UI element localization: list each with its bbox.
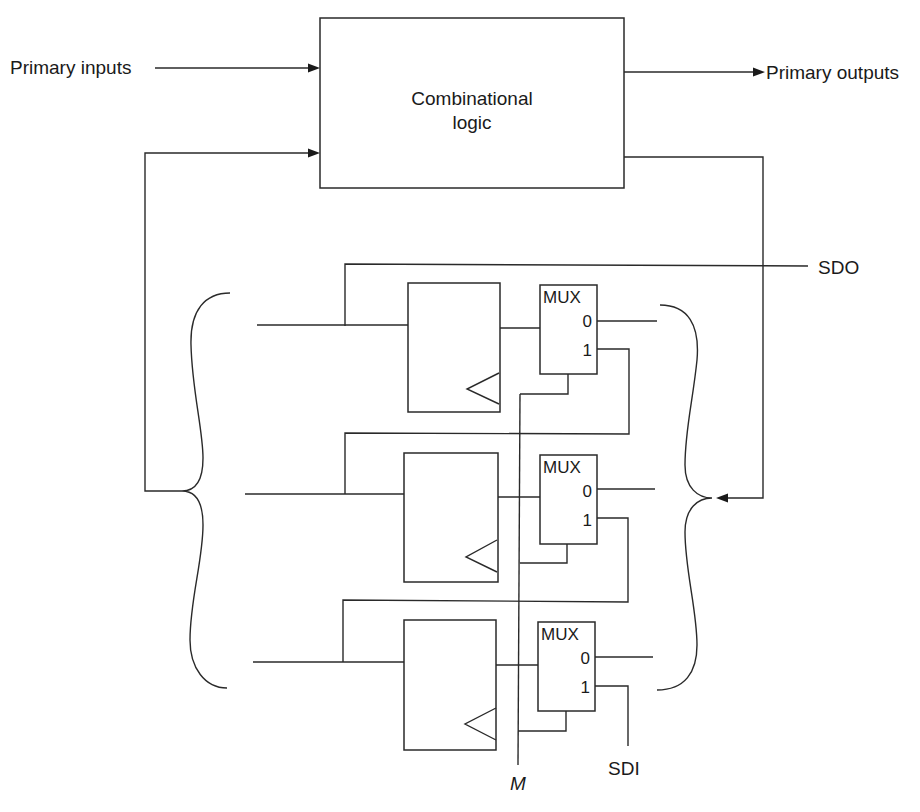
primary-inputs-label: Primary inputs xyxy=(10,57,131,78)
mux-1-title: MUX xyxy=(543,288,581,307)
primary-inputs: Primary inputs xyxy=(10,57,320,78)
next-state-path xyxy=(624,157,763,503)
mode-select-line: M xyxy=(510,394,526,794)
left-brace xyxy=(182,293,230,688)
combinational-logic-block: Combinational logic xyxy=(320,18,624,188)
mux-2-pin0: 0 xyxy=(583,482,592,501)
primary-outputs-label: Primary outputs xyxy=(766,62,899,83)
arrow-right-icon xyxy=(308,149,320,158)
mux-2-title: MUX xyxy=(543,458,581,477)
mux-3-title: MUX xyxy=(541,625,579,644)
combinational-label-line1: Combinational xyxy=(411,88,532,109)
sdi-label: SDI xyxy=(608,758,640,779)
arrow-right-icon xyxy=(753,68,765,77)
mux-3-pin1: 1 xyxy=(581,678,590,697)
mux-2-pin1: 1 xyxy=(583,511,592,530)
arrow-right-icon xyxy=(308,64,320,73)
mode-label: M xyxy=(510,773,526,794)
flip-flop-2 xyxy=(404,453,498,582)
flip-flop-3 xyxy=(404,620,496,750)
mux-1-pin1: 1 xyxy=(583,341,592,360)
mux-3-pin0: 0 xyxy=(581,649,590,668)
right-brace xyxy=(657,305,712,690)
scan-chain-diagram: Combinational logic Primary inputs Prima… xyxy=(0,0,920,812)
sdo-label: SDO xyxy=(818,257,859,278)
flip-flop-1 xyxy=(408,283,500,412)
state-feedback-path xyxy=(145,149,320,492)
combinational-label-line2: logic xyxy=(452,112,491,133)
mux-1-pin0: 0 xyxy=(583,312,592,331)
primary-outputs: Primary outputs xyxy=(624,62,899,83)
scan-stage-3: MUX 0 1 xyxy=(253,620,653,750)
arrow-left-icon xyxy=(716,494,728,503)
